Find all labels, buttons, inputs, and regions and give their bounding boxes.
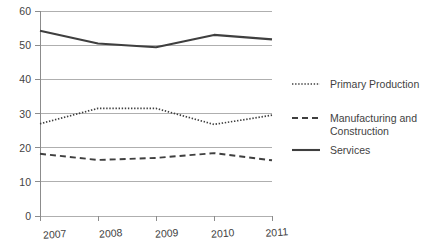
line-chart: 60 50 40 30 20 10 0 2007 2008 2009 2010 … (0, 0, 424, 250)
legend-label-primary-production: Primary Production (330, 78, 419, 90)
y-label-30: 30 (19, 108, 31, 120)
x-label-2007: 2007 (43, 227, 67, 241)
legend-label-manufacturing-and-construction: Manufacturing and (330, 112, 417, 124)
y-label-60: 60 (19, 5, 31, 17)
x-label-2010: 2010 (211, 226, 235, 240)
y-label-50: 50 (19, 39, 31, 51)
x-label-2011: 2011 (265, 225, 289, 239)
chart-canvas: 60 50 40 30 20 10 0 2007 2008 2009 2010 … (0, 0, 424, 250)
y-label-10: 10 (19, 176, 31, 188)
legend-label-services: Services (330, 144, 370, 156)
y-label-40: 40 (19, 73, 31, 85)
x-label-2008: 2008 (99, 226, 123, 240)
legend-label-manufacturing-and-construction-line2: Construction (330, 125, 389, 137)
x-label-2009: 2009 (155, 226, 179, 240)
y-label-0: 0 (25, 210, 31, 222)
y-label-20: 20 (19, 142, 31, 154)
